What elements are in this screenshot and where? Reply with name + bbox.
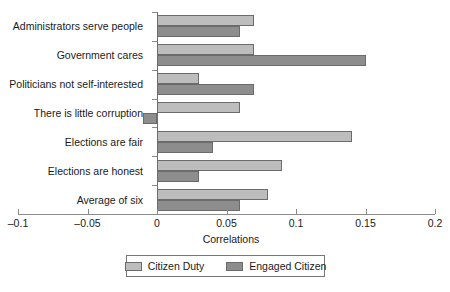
category-tick [152, 99, 157, 100]
chart-legend: Citizen DutyEngaged Citizen [126, 255, 325, 277]
x-axis-tick-label: –0.1 [8, 217, 28, 229]
bar-engaged-citizen [143, 113, 157, 124]
category-tick [152, 127, 157, 128]
x-axis-tick [157, 209, 158, 214]
legend-swatch-engaged [226, 262, 243, 271]
category-tick [152, 70, 157, 71]
bar-citizen-duty [157, 102, 240, 113]
bar-engaged-citizen [157, 171, 199, 182]
x-axis-tick [296, 209, 297, 214]
x-axis-tick-label: 0.05 [216, 217, 236, 229]
bar-citizen-duty [157, 15, 254, 26]
x-axis-tick-label: 0.2 [428, 217, 443, 229]
plot-area [18, 12, 435, 214]
bar-citizen-duty [157, 73, 199, 84]
x-axis-tick [88, 209, 89, 214]
category-tick [152, 12, 157, 13]
legend-entry-duty: Citizen Duty [125, 260, 205, 272]
legend-swatch-duty [125, 262, 142, 271]
zero-axis-line [157, 12, 158, 214]
x-axis-title-text: Correlations [203, 233, 260, 245]
x-axis-tick [18, 209, 19, 214]
x-axis-tick [435, 209, 436, 214]
x-axis-tick-label: 0.15 [355, 217, 375, 229]
x-axis-tick-label: –0.05 [74, 217, 100, 229]
bar-engaged-citizen [157, 142, 213, 153]
category-tick [152, 156, 157, 157]
legend-label: Citizen Duty [148, 260, 205, 272]
bar-engaged-citizen [157, 200, 240, 211]
legend-entry-engaged: Engaged Citizen [226, 260, 326, 272]
bar-citizen-duty [157, 131, 352, 142]
bar-engaged-citizen [157, 84, 254, 95]
x-axis-tick-label: 0.1 [289, 217, 304, 229]
x-axis-tick [366, 209, 367, 214]
bar-engaged-citizen [157, 26, 240, 37]
legend-label: Engaged Citizen [249, 260, 326, 272]
bar-citizen-duty [157, 44, 254, 55]
bar-citizen-duty [157, 160, 282, 171]
bar-citizen-duty [157, 189, 268, 200]
chart-figure: Administrators serve peopleGovernment ca… [0, 0, 450, 292]
x-axis-tick-label: 0 [154, 217, 160, 229]
bar-engaged-citizen [157, 55, 366, 66]
x-axis-line [18, 214, 435, 215]
x-axis-title: Correlations [0, 233, 450, 245]
category-tick [152, 185, 157, 186]
x-axis-tick [227, 209, 228, 214]
category-tick [152, 41, 157, 42]
